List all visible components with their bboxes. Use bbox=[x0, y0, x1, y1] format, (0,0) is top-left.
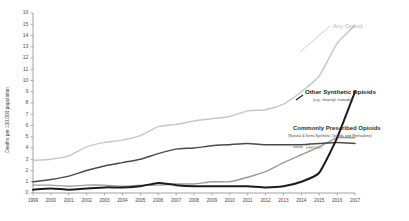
y-tick-label: 15 bbox=[23, 21, 29, 27]
y-tick-label: 11 bbox=[23, 66, 28, 72]
chart-canvas: Deaths per 100,000 population 0123456789… bbox=[0, 0, 409, 221]
x-tick-label: 2005 bbox=[135, 198, 146, 203]
x-tick-label: 2008 bbox=[189, 198, 200, 203]
x-tick-label: 2015 bbox=[314, 198, 325, 203]
prescribed-sublabel: (Natural & Semi-Synthetic Opioids and Me… bbox=[288, 134, 372, 138]
y-tick-label: 4 bbox=[26, 144, 29, 150]
y-axis-title: Deaths per 100,000 population bbox=[5, 87, 10, 153]
y-tick-label: 7 bbox=[26, 111, 29, 117]
heroin-label: Heroin bbox=[306, 144, 322, 150]
y-axis-group: 012345678910111213141516 bbox=[23, 9, 33, 195]
y-tick-label: 5 bbox=[26, 133, 29, 139]
any-opioid-label-group: Any Opioid bbox=[300, 23, 362, 52]
x-tick-label: 2004 bbox=[117, 198, 128, 203]
x-tick-label: 2002 bbox=[82, 198, 93, 203]
y-axis-title-group: Deaths per 100,000 population bbox=[5, 87, 10, 153]
y-tick-label: 8 bbox=[26, 99, 29, 105]
prescribed-label: Commonly Prescribed Opioids bbox=[293, 125, 381, 131]
x-tick-label: 2001 bbox=[64, 198, 75, 203]
x-tick-label: 2017 bbox=[350, 198, 361, 203]
x-tick-label: 2010 bbox=[225, 198, 236, 203]
any-opioid-label: Any Opioid bbox=[333, 23, 362, 29]
y-tick-label: 14 bbox=[23, 32, 29, 38]
x-tick-label: 2000 bbox=[46, 198, 57, 203]
x-tick-label: 2016 bbox=[332, 198, 343, 203]
series-line-other-synthetic-opioids bbox=[33, 92, 355, 190]
any-opioid-leader-line bbox=[300, 26, 330, 52]
series-paths-group bbox=[33, 25, 355, 189]
x-tick-label: 1999 bbox=[28, 198, 39, 203]
y-tick-label: 16 bbox=[23, 9, 29, 15]
y-tick-label: 9 bbox=[26, 88, 29, 94]
y-tick-label: 0 bbox=[26, 189, 29, 195]
x-tick-label: 2012 bbox=[260, 198, 271, 203]
y-tick-label: 6 bbox=[26, 122, 29, 128]
x-axis-group: 1999200020012002200320042005200620072008… bbox=[28, 193, 361, 203]
x-tick-label: 2011 bbox=[243, 198, 253, 203]
x-tick-label: 2013 bbox=[278, 198, 289, 203]
x-tick-label: 2006 bbox=[153, 198, 164, 203]
y-tick-label: 2 bbox=[26, 167, 29, 173]
y-tick-label: 12 bbox=[23, 54, 29, 60]
x-tick-label: 2014 bbox=[296, 198, 307, 203]
y-tick-group: 012345678910111213141516 bbox=[23, 9, 33, 195]
y-tick-label: 10 bbox=[23, 77, 29, 83]
y-tick-label: 3 bbox=[26, 156, 29, 162]
x-tick-label: 2009 bbox=[207, 198, 218, 203]
y-tick-label: 1 bbox=[26, 178, 29, 184]
other-synthetic-sublabel: (e.g., fentanyl, tramadol) bbox=[313, 98, 353, 102]
other-synthetic-label: Other Synthetic Opioids bbox=[305, 88, 376, 95]
x-tick-group: 1999200020012002200320042005200620072008… bbox=[28, 193, 361, 203]
x-tick-label: 2003 bbox=[99, 198, 110, 203]
x-tick-label: 2007 bbox=[171, 198, 182, 203]
other-synthetic-label-group: Other Synthetic Opioids (e.g., fentanyl,… bbox=[296, 88, 376, 102]
opioid-death-rate-chart: Deaths per 100,000 population 0123456789… bbox=[0, 0, 409, 221]
prescribed-label-group: Commonly Prescribed Opioids (Natural & S… bbox=[288, 125, 381, 138]
y-tick-label: 13 bbox=[23, 43, 29, 49]
